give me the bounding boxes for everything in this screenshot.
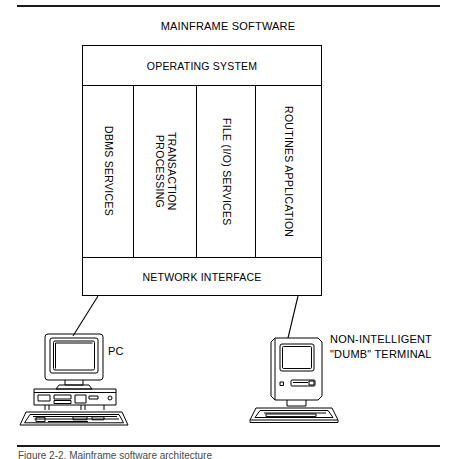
mainframe-software-box: OPERATING SYSTEM DBMS SERVICES TRANSACTI… xyxy=(82,45,322,296)
bottom-divider-rule xyxy=(17,445,440,447)
network-interface-label: NETWORK INTERFACE xyxy=(143,271,262,283)
column-label-file-io-services: FILE (I/O) SERVICES xyxy=(220,118,232,226)
column-transaction-processing: TRANSACTION PROCESSING xyxy=(134,86,197,257)
figure-title: MAINFRAME SOFTWARE xyxy=(0,20,456,32)
column-dbms-services: DBMS SERVICES xyxy=(83,86,134,257)
column-file-io-services: FILE (I/O) SERVICES xyxy=(197,86,256,257)
column-routines-application: ROUTINES APPLICATION xyxy=(256,86,321,257)
terminal-label: NON-INTELLIGENT "DUMB" TERMINAL xyxy=(330,332,432,362)
top-divider-rule xyxy=(17,5,440,7)
pc-illustration xyxy=(18,326,148,426)
operating-system-band: OPERATING SYSTEM xyxy=(83,46,321,86)
operating-system-label: OPERATING SYSTEM xyxy=(147,60,257,72)
column-label-routines-application: ROUTINES APPLICATION xyxy=(283,106,295,237)
column-label-dbms-services: DBMS SERVICES xyxy=(102,126,114,216)
pc-label: PC xyxy=(108,344,124,359)
column-label-transaction-processing: TRANSACTION PROCESSING xyxy=(153,132,177,211)
figure-caption: Figure 2-2. Mainframe software architect… xyxy=(18,450,318,459)
network-interface-band: NETWORK INTERFACE xyxy=(83,257,321,295)
figure-page: MAINFRAME SOFTWARE OPERATING SYSTEM DBMS… xyxy=(0,0,456,459)
service-columns: DBMS SERVICES TRANSACTION PROCESSING FIL… xyxy=(83,86,321,257)
